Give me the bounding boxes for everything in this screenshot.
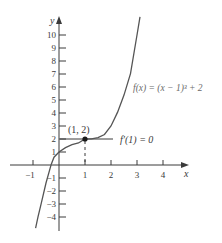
y-tick-label: 4 bbox=[52, 108, 57, 118]
function-label: f(x) = (x − 1)³ + 2 bbox=[133, 83, 203, 94]
y-tick-label: 10 bbox=[47, 30, 57, 40]
y-tick-label: −3 bbox=[46, 199, 56, 209]
y-tick-label: −4 bbox=[46, 212, 56, 222]
y-tick-label: −2 bbox=[46, 186, 56, 196]
x-tick-label: 3 bbox=[135, 170, 140, 180]
y-tick-label: 5 bbox=[52, 95, 57, 105]
y-tick-label: 9 bbox=[52, 43, 57, 53]
x-tick-label: 4 bbox=[161, 170, 166, 180]
graph-canvas: −1 1 2 3 4 10 9 8 7 6 5 4 3 2 1 −1 −2 −3… bbox=[0, 0, 222, 243]
point-label: (1, 2) bbox=[68, 124, 90, 136]
y-tick-label: 8 bbox=[52, 56, 57, 66]
point-marker bbox=[82, 136, 87, 141]
y-tick-label: 2 bbox=[52, 134, 57, 144]
y-tick-label: 6 bbox=[52, 82, 57, 92]
x-axis-label: x bbox=[183, 168, 189, 179]
y-tick-label: 3 bbox=[52, 121, 57, 131]
y-tick-label: 7 bbox=[52, 69, 57, 79]
y-axis-label: y bbox=[49, 15, 55, 26]
x-tick-label: 2 bbox=[109, 170, 114, 180]
y-axis-arrow-icon bbox=[56, 16, 62, 24]
x-tick-label: 1 bbox=[83, 170, 88, 180]
derivative-label: f′(1) = 0 bbox=[120, 134, 153, 146]
x-tick-label: −1 bbox=[25, 170, 35, 180]
y-ticks bbox=[59, 35, 66, 217]
